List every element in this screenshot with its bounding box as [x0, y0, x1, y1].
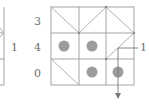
node-dot: [105, 6, 107, 8]
diagonal-path: [51, 59, 79, 85]
left-grid-fragment: 1: [0, 7, 18, 85]
pointer-label: 1: [140, 41, 147, 54]
filled-circle: [59, 41, 70, 52]
node-dot: [105, 58, 107, 60]
node-dot: [133, 32, 135, 34]
filled-circle: [87, 41, 98, 52]
row-label: 0: [34, 67, 41, 80]
fragment-label: 1: [11, 41, 18, 54]
row-label: 4: [34, 41, 41, 54]
arrow-down-icon: [115, 93, 121, 99]
fragment-diagonal: [0, 28, 4, 33]
row-labels: 3 4 0: [34, 15, 41, 80]
fragment-diagonal: [0, 33, 4, 37]
row-label: 3: [34, 15, 41, 28]
filled-circle: [87, 67, 98, 78]
puzzle-diagram: 1 3 4 0 1: [0, 0, 149, 105]
node-dot: [78, 32, 80, 34]
